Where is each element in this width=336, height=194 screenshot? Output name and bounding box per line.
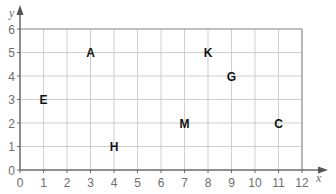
x-tick-label: 0 xyxy=(17,176,24,190)
y-tick-label: 4 xyxy=(8,70,15,84)
y-axis-arrow-icon xyxy=(17,5,24,15)
axes xyxy=(17,5,329,174)
x-tick-label: 7 xyxy=(181,176,188,190)
point-h: H xyxy=(110,140,119,154)
x-tick-label: 8 xyxy=(205,176,212,190)
x-tick-label: 10 xyxy=(248,176,262,190)
x-tick-label: 12 xyxy=(295,176,309,190)
x-tick-label: 3 xyxy=(87,176,94,190)
x-tick-label: 4 xyxy=(111,176,118,190)
x-tick-label: 6 xyxy=(158,176,165,190)
point-a: A xyxy=(86,46,95,60)
x-tick-label: 9 xyxy=(228,176,235,190)
y-tick-label: 1 xyxy=(8,140,15,154)
x-axis-label: x xyxy=(315,171,322,185)
tick-labels: 01234567891011120123456 xyxy=(8,23,309,191)
x-tick-label: 1 xyxy=(40,176,47,190)
x-tick-label: 2 xyxy=(64,176,71,190)
point-k: K xyxy=(204,46,213,60)
grid-lines xyxy=(20,29,302,170)
y-tick-label: 6 xyxy=(8,23,15,37)
y-tick-label: 0 xyxy=(8,164,15,178)
y-tick-label: 2 xyxy=(8,117,15,131)
x-tick-label: 11 xyxy=(272,176,285,190)
y-tick-label: 3 xyxy=(8,93,15,107)
x-tick-label: 5 xyxy=(134,176,141,190)
point-c: C xyxy=(274,117,283,131)
point-g: G xyxy=(227,70,236,84)
coordinate-grid-chart: 01234567891011120123456 AKGEMCH x y xyxy=(0,0,336,194)
y-axis-label: y xyxy=(8,6,15,20)
point-m: M xyxy=(180,117,190,131)
y-tick-label: 5 xyxy=(8,46,15,60)
point-e: E xyxy=(39,93,47,107)
